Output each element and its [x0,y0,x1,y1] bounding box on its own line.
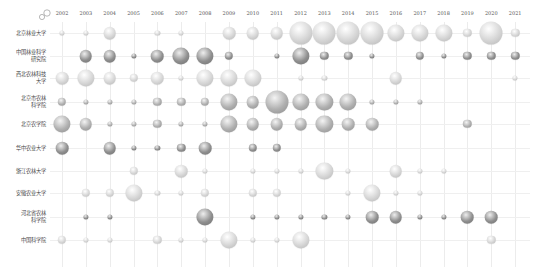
year-label: 2015 [366,10,379,16]
bubble [129,167,137,175]
bubble [361,22,384,45]
bubble [292,47,309,64]
bubble [244,69,261,86]
bubble [417,214,422,219]
bubble [298,214,303,219]
bubble [201,98,209,106]
bubble [107,214,112,219]
bubble [107,99,112,104]
year-label: 2018 [437,10,450,16]
bubble [83,30,88,35]
bubble-matrix-chart: 2002200320042005200620072008200920102011… [0,0,539,278]
bubble [390,211,403,224]
bubble [197,69,214,86]
bubble [298,168,303,173]
bubble [179,75,184,80]
bubble [417,99,422,104]
bubble [173,47,190,64]
bubble [511,52,519,60]
bubble [203,168,208,173]
bubble [58,98,66,106]
bubble [225,52,233,60]
bubble [220,115,237,132]
year-label: 2017 [413,10,426,16]
bubble [337,22,360,45]
year-label: 2003 [79,10,92,16]
bubble [197,208,214,225]
bubble [59,30,64,35]
bubble [175,165,188,178]
institution-label: 北京林业大学 [16,30,46,37]
bubble [197,47,214,64]
grid-hline [50,124,530,125]
bubble [417,190,422,195]
bubble [366,118,379,131]
bubble [223,27,236,40]
bubble [107,121,112,126]
bubble [270,27,283,40]
bubble [322,75,327,80]
bubble [316,93,333,110]
institution-label: 安徽农业大学 [16,190,46,197]
bubble [107,237,112,242]
grid-hline [50,148,530,149]
bubble [435,24,452,41]
bubble [250,237,255,242]
year-label: 2016 [390,10,403,16]
bubble [316,162,333,179]
bubble [344,52,352,60]
institution-label: 中国科学院 [21,237,46,244]
bubble [342,118,355,131]
bubble [270,118,283,131]
bubble [153,98,161,106]
bubble [247,96,260,109]
bubble [369,53,374,58]
bubble [56,72,69,85]
bubble [416,52,424,60]
bubble [393,99,398,104]
bubble [82,189,90,197]
bubble [179,190,184,195]
bubble [203,121,208,126]
bubble [103,72,116,85]
bubble [249,144,257,152]
bubble [417,168,422,173]
bubble [129,74,137,82]
bubble [131,121,136,126]
year-label: 2005 [127,10,140,16]
bubble [274,53,279,58]
bubble [83,99,88,104]
bubble [105,189,113,197]
bubble [56,142,69,155]
year-label: 2008 [199,10,212,16]
bubble [53,115,70,132]
bubble [289,22,312,45]
bubble-size-legend-icon [38,9,52,21]
bubble [274,168,279,173]
bubble [179,30,184,35]
bubble [366,211,379,224]
bubble [272,144,280,152]
year-label: 2011 [270,10,283,16]
year-label: 2009 [223,10,236,16]
institution-label: 浙江农林大学 [16,168,46,175]
bubble [441,214,446,219]
bubble [316,115,333,132]
bubble [346,168,351,173]
bubble [203,237,208,242]
year-label: 2012 [294,10,307,16]
institution-label: 中国林业科学 研究院 [16,49,46,63]
bubble [131,99,136,104]
grid-vline [372,22,373,267]
bubble [131,53,136,58]
institution-label: 河北省农林 科学院 [21,210,46,224]
bubble [487,236,495,244]
year-label: 2021 [509,10,522,16]
institution-label: 北京农学院 [21,121,46,128]
bubble [151,72,164,85]
year-label: 2019 [461,10,474,16]
grid-hline [50,171,530,172]
bubble [390,165,403,178]
year-label: 2004 [103,10,116,16]
year-label: 2020 [485,10,498,16]
